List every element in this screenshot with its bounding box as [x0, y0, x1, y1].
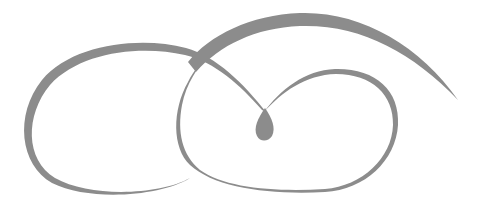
- swirl-flourish: Decorative calligraphic swirl flourish: [0, 0, 491, 210]
- right-loop: [176, 54, 398, 193]
- center-teardrop: [256, 108, 274, 141]
- left-loop: [24, 43, 266, 195]
- swirl-flourish-icon: [0, 0, 491, 210]
- upper-arc: [188, 13, 458, 100]
